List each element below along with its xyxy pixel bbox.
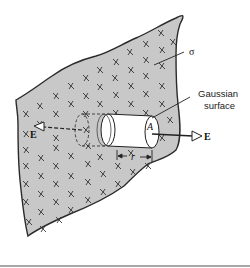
distance-label: r bbox=[131, 151, 135, 162]
field-label-left: E bbox=[30, 129, 37, 140]
gaussian-surface-diagram: σ Gaussian surface A E E r bbox=[0, 0, 250, 268]
area-label: A bbox=[146, 121, 154, 132]
sigma-label: σ bbox=[189, 46, 195, 57]
gaussian-label-line1: Gaussian bbox=[198, 88, 238, 99]
field-label-right: E bbox=[204, 131, 211, 142]
gaussian-label-line2: surface bbox=[204, 100, 235, 111]
